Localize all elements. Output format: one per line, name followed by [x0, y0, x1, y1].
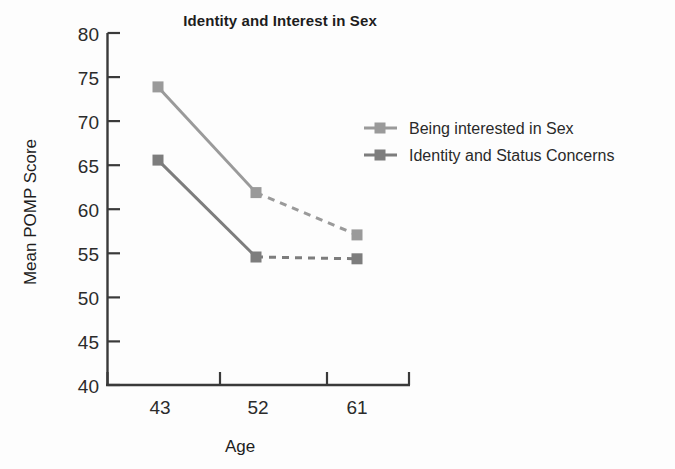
x-tick-label-52: 52 [247, 397, 268, 418]
legend-entry-1[interactable]: Identity and Status Concerns [364, 147, 614, 164]
series1-marker-61 [352, 229, 363, 240]
y-axis-title: Mean POMP Score [21, 139, 40, 285]
series1-segment-solid [158, 87, 256, 193]
y-tick-label-75: 75 [78, 68, 99, 89]
x-axis-ticks [108, 372, 410, 385]
series2-segment-dashed [256, 257, 357, 259]
chart-legend: Being interested in Sex Identity and Sta… [364, 120, 614, 164]
chart-page: Identity and Interest in Sex 80 75 70 65… [0, 0, 675, 469]
y-tick-label-40: 40 [78, 376, 99, 397]
series1-marker-43 [153, 81, 164, 92]
y-tick-label-70: 70 [78, 112, 99, 133]
series-identity-and-status-concerns [153, 155, 363, 265]
y-axis-ticks [108, 33, 121, 385]
series-being-interested-in-sex [153, 81, 363, 240]
y-tick-label-65: 65 [78, 156, 99, 177]
series1-marker-52 [251, 187, 262, 198]
series1-segment-dashed [256, 193, 357, 235]
y-tick-label-60: 60 [78, 200, 99, 221]
legend-label-1: Identity and Status Concerns [409, 147, 614, 164]
legend-entry-0[interactable]: Being interested in Sex [364, 120, 574, 137]
legend-swatch-marker-0 [375, 123, 386, 134]
series2-marker-61 [352, 253, 363, 264]
legend-swatch-marker-1 [375, 150, 386, 161]
chart-plot-area: 80 75 70 65 60 55 50 45 40 43 52 61 Age … [0, 0, 675, 469]
x-axis-title: Age [225, 437, 255, 456]
x-tick-label-43: 43 [149, 397, 170, 418]
legend-label-0: Being interested in Sex [409, 120, 574, 137]
y-tick-label-80: 80 [78, 24, 99, 45]
series2-marker-52 [251, 252, 262, 263]
x-tick-label-61: 61 [346, 397, 367, 418]
y-tick-label-50: 50 [78, 288, 99, 309]
y-tick-label-45: 45 [78, 332, 99, 353]
y-tick-label-55: 55 [78, 244, 99, 265]
series2-marker-43 [153, 155, 164, 166]
